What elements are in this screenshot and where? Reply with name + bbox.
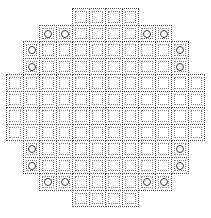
grid-cell bbox=[89, 41, 107, 59]
grid-cell bbox=[39, 74, 57, 92]
grid-cell bbox=[188, 91, 206, 109]
circle-marker-icon bbox=[28, 46, 36, 54]
grid-cell bbox=[122, 58, 140, 76]
grid-cell bbox=[72, 157, 90, 175]
grid-cell bbox=[6, 124, 24, 142]
grid-cell bbox=[89, 140, 107, 158]
grid-cell bbox=[138, 58, 156, 76]
grid-cell bbox=[188, 124, 206, 142]
circle-marker-icon bbox=[28, 162, 36, 170]
grid-cell bbox=[105, 107, 123, 125]
grid-cell bbox=[155, 74, 173, 92]
grid-cell bbox=[155, 41, 173, 59]
grid-cell bbox=[23, 107, 41, 125]
grid-cell bbox=[89, 8, 107, 26]
grid-cell bbox=[89, 74, 107, 92]
grid-cell bbox=[105, 157, 123, 175]
grid-cell bbox=[105, 8, 123, 26]
circle-marker-icon bbox=[44, 178, 52, 186]
grid-cell bbox=[155, 140, 173, 158]
grid-cell bbox=[72, 74, 90, 92]
grid-cell bbox=[138, 157, 156, 175]
circle-marker-icon bbox=[143, 30, 151, 38]
grid-cell bbox=[138, 91, 156, 109]
grid-cell bbox=[23, 124, 41, 142]
grid-cell bbox=[171, 74, 189, 92]
grid-cell bbox=[155, 25, 173, 43]
grid-cell bbox=[6, 107, 24, 125]
grid-cell bbox=[138, 140, 156, 158]
circle-marker-icon bbox=[176, 63, 184, 71]
grid-cell bbox=[122, 173, 140, 191]
grid-cell bbox=[105, 58, 123, 76]
grid-cell bbox=[171, 41, 189, 59]
grid-cell bbox=[23, 91, 41, 109]
circle-marker-icon bbox=[61, 178, 69, 186]
grid-cell bbox=[122, 107, 140, 125]
grid-cell bbox=[105, 140, 123, 158]
grid-cell bbox=[72, 190, 90, 208]
grid-cell bbox=[56, 124, 74, 142]
circle-marker-icon bbox=[160, 178, 168, 186]
grid-cell bbox=[155, 107, 173, 125]
grid-cell bbox=[105, 91, 123, 109]
grid-cell bbox=[188, 74, 206, 92]
grid-cell bbox=[23, 140, 41, 158]
grid-cell bbox=[72, 58, 90, 76]
core-grid-diagram bbox=[0, 0, 211, 218]
grid-cell bbox=[138, 124, 156, 142]
grid-cell bbox=[72, 91, 90, 109]
grid-cell bbox=[72, 8, 90, 26]
circle-marker-icon bbox=[28, 145, 36, 153]
grid-cell bbox=[39, 157, 57, 175]
grid-cell bbox=[56, 74, 74, 92]
grid-cell bbox=[39, 107, 57, 125]
grid-cell bbox=[155, 157, 173, 175]
grid-cell bbox=[138, 173, 156, 191]
grid-cell bbox=[56, 41, 74, 59]
grid-cell bbox=[72, 173, 90, 191]
grid-cell bbox=[155, 173, 173, 191]
circle-marker-icon bbox=[176, 162, 184, 170]
grid-cell bbox=[105, 41, 123, 59]
circle-marker-icon bbox=[28, 63, 36, 71]
grid-cell bbox=[72, 41, 90, 59]
grid-cell bbox=[171, 140, 189, 158]
grid-cell bbox=[122, 140, 140, 158]
grid-cell bbox=[72, 107, 90, 125]
grid-cell bbox=[56, 157, 74, 175]
grid-cell bbox=[39, 173, 57, 191]
grid-cell bbox=[72, 140, 90, 158]
grid-cell bbox=[138, 41, 156, 59]
grid-cell bbox=[39, 124, 57, 142]
grid-cell bbox=[138, 25, 156, 43]
grid-cell bbox=[56, 25, 74, 43]
grid-cell bbox=[122, 25, 140, 43]
grid-cell bbox=[122, 91, 140, 109]
grid-cell bbox=[155, 124, 173, 142]
grid-cell bbox=[122, 41, 140, 59]
grid-cell bbox=[6, 91, 24, 109]
grid-cell bbox=[105, 124, 123, 142]
grid-cell bbox=[89, 91, 107, 109]
grid-cell bbox=[56, 107, 74, 125]
grid-cell bbox=[39, 91, 57, 109]
grid-cell bbox=[105, 173, 123, 191]
grid-cell bbox=[89, 173, 107, 191]
grid-cell bbox=[105, 25, 123, 43]
grid-cell bbox=[105, 74, 123, 92]
grid-cell bbox=[155, 91, 173, 109]
grid-cell bbox=[122, 124, 140, 142]
grid-cell bbox=[89, 58, 107, 76]
circle-marker-icon bbox=[160, 30, 168, 38]
grid-cell bbox=[23, 74, 41, 92]
grid-cell bbox=[89, 107, 107, 125]
circle-marker-icon bbox=[176, 145, 184, 153]
grid-cell bbox=[39, 25, 57, 43]
grid-cell bbox=[171, 91, 189, 109]
grid-cell bbox=[56, 58, 74, 76]
circle-marker-icon bbox=[44, 30, 52, 38]
circle-marker-icon bbox=[143, 178, 151, 186]
grid-cell bbox=[171, 124, 189, 142]
grid-cell bbox=[138, 107, 156, 125]
